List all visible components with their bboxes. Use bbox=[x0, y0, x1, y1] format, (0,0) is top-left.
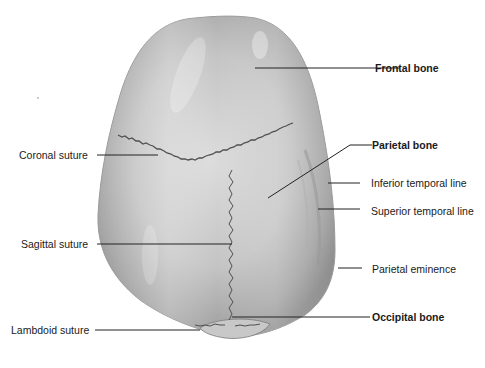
label-frontal-bone: Frontal bone bbox=[375, 62, 439, 74]
label-occipital-bone: Occipital bone bbox=[372, 311, 444, 323]
skull-diagram: Coronal suture Sagittal suture Lambdoid … bbox=[0, 0, 485, 368]
label-coronal-suture: Coronal suture bbox=[19, 149, 88, 161]
label-sagittal-suture: Sagittal suture bbox=[21, 238, 88, 250]
label-inferior-temporal-line: Inferior temporal line bbox=[371, 177, 467, 189]
label-parietal-eminence: Parietal eminence bbox=[372, 263, 456, 275]
label-lambdoid-suture: Lambdoid suture bbox=[11, 324, 89, 336]
label-superior-temporal-line: Superior temporal line bbox=[371, 205, 474, 217]
label-parietal-bone: Parietal bone bbox=[372, 139, 438, 151]
